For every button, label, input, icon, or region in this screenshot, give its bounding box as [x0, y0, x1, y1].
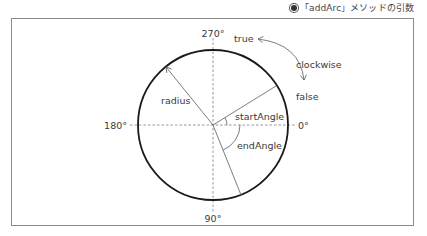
- clockwise-label: clockwise: [296, 59, 342, 70]
- radius-label: radius: [161, 95, 190, 106]
- label-270: 270°: [202, 28, 225, 39]
- label-90: 90°: [205, 213, 222, 224]
- clockwise-true-label: true: [234, 33, 254, 44]
- start-angle-arc: [225, 118, 227, 125]
- label-0: 0°: [298, 120, 309, 131]
- start-angle-label: startAngle: [235, 111, 284, 122]
- label-180: 180°: [104, 120, 127, 131]
- clockwise-false-label: false: [296, 91, 319, 102]
- end-angle-line: [213, 125, 241, 195]
- end-angle-label: endAngle: [237, 140, 282, 151]
- addarc-diagram: 270° 180° 0° 90° radius startAngle endAn…: [0, 0, 427, 236]
